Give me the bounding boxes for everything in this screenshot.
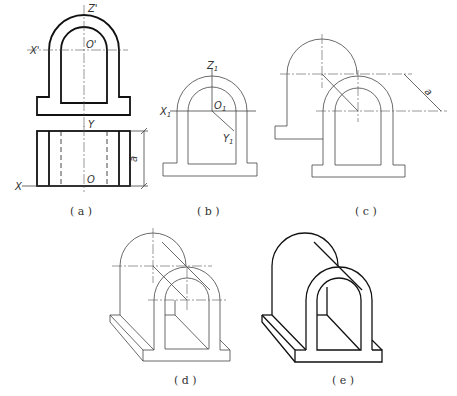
panel-d: ( d ) bbox=[110, 228, 230, 387]
label-x-prime: X' bbox=[29, 45, 40, 56]
technical-drawing: Z' X' O' Y X O a ( a ) Z1 X1 O1 Y1 ( b ) bbox=[0, 0, 457, 396]
panel-e: ( e ) bbox=[262, 233, 382, 387]
panel-b: Z1 X1 O1 Y1 ( b ) bbox=[159, 60, 257, 218]
caption-c: ( c ) bbox=[355, 205, 377, 218]
caption-e: ( e ) bbox=[332, 374, 354, 387]
label-x: X bbox=[14, 181, 23, 192]
label-y: Y bbox=[88, 119, 95, 130]
panel-c: a ( c ) bbox=[275, 34, 447, 218]
caption-a: ( a ) bbox=[70, 205, 92, 218]
panel-a-front-view: Z' X' O' bbox=[27, 3, 130, 128]
label-o: O bbox=[87, 174, 95, 185]
label-x1: X1 bbox=[159, 106, 171, 119]
caption-d: ( d ) bbox=[174, 374, 197, 387]
label-dim-a: a bbox=[128, 156, 139, 162]
label-dim-a-c: a bbox=[423, 86, 435, 98]
label-o-prime: O' bbox=[86, 39, 97, 50]
label-y1: Y1 bbox=[223, 133, 234, 146]
panel-a-top-view: Y X O a ( a ) bbox=[14, 119, 148, 218]
caption-b: ( b ) bbox=[197, 205, 220, 218]
label-z-prime: Z' bbox=[87, 3, 98, 14]
